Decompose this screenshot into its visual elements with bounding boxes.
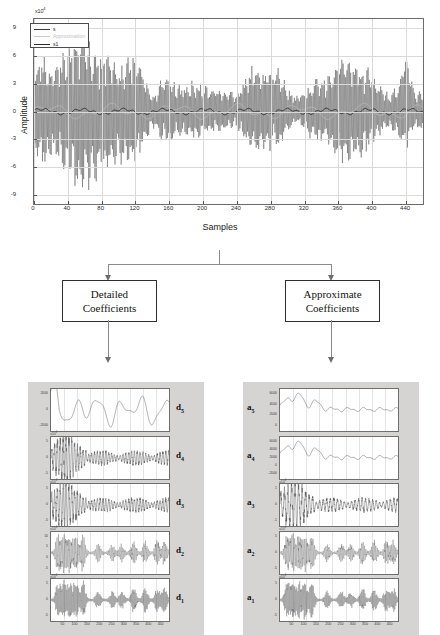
main-chart-x-tick — [271, 201, 272, 204]
main-chart-gridline-horizontal — [34, 167, 423, 168]
subplot-trace-a1 — [280, 579, 398, 621]
subplot-label-a1: a1 — [247, 592, 255, 604]
legend-entry-s: s — [34, 26, 88, 33]
detailed-box-line1: Detailed — [91, 287, 128, 301]
legend-swatch-icon — [34, 29, 50, 30]
subplot-y-tick-label: 2000 — [31, 391, 48, 395]
subplot-y-tick-label: -2000 — [31, 423, 48, 427]
subplot-signal-path — [280, 581, 398, 620]
main-chart-y-tick-label: -6 — [0, 163, 16, 169]
subplot-y-tick-label: 0 — [31, 502, 48, 506]
flow-stem-to-approx-panels — [331, 320, 332, 358]
main-chart-x-tick — [169, 201, 170, 204]
subplot-y-tick-label: 4000 — [260, 447, 277, 451]
main-chart-y-tick-label: 6 — [0, 52, 16, 58]
subplot-trace-d5 — [51, 389, 169, 431]
main-chart-y-tick — [34, 112, 37, 113]
subplot-label-a3: a3 — [247, 497, 255, 509]
subplot-trace-a5 — [280, 389, 398, 431]
subplot-trace-d4 — [51, 437, 169, 479]
subplot-y-tick-label: 5 — [260, 534, 277, 538]
subplot-d1 — [50, 578, 170, 622]
main-chart-x-tick-label: 280 — [255, 205, 285, 211]
subplot-trace-d1 — [51, 579, 169, 621]
legend-entry-approximation: Approximation — [34, 33, 88, 40]
flow-horizontal-bus — [108, 264, 331, 265]
main-chart-gridline-horizontal — [34, 139, 423, 140]
main-chart-gridline-horizontal — [34, 56, 423, 57]
subplot-trace-a2 — [280, 532, 398, 574]
subplot-d2 — [50, 531, 170, 575]
main-chart-x-tick-label: 80 — [86, 205, 116, 211]
main-chart-x-tick-label: 440 — [390, 205, 420, 211]
main-chart-exponent-label: x104 — [35, 6, 45, 14]
subplot-y-tick-label: 5 — [31, 486, 48, 490]
subplot-y-tick-label: 5 — [260, 581, 277, 585]
subplot-exponent-label: x104 — [50, 431, 57, 436]
flow-arrowhead-right-bottom — [328, 357, 334, 363]
flow-stem-vertical — [219, 250, 220, 264]
main-chart-x-tick-label: 40 — [52, 205, 82, 211]
main-chart-x-tick-label: 240 — [221, 205, 251, 211]
subplot-a5 — [279, 388, 399, 432]
subplot-y-tick-label: 0 — [260, 550, 277, 554]
subplot-a4 — [279, 436, 399, 480]
main-chart-x-tick-label: 400 — [356, 205, 386, 211]
subplot-y-tick-label: -5 — [260, 613, 277, 617]
subplot-a3 — [279, 483, 399, 527]
subplot-y-tick-label: 2000 — [260, 455, 277, 459]
subplot-y-tick-label: 2000 — [260, 412, 277, 416]
approximate-coefficients-box[interactable]: Approximate Coefficients — [285, 280, 380, 322]
subplot-y-tick-label: 10 — [31, 534, 48, 538]
subplot-y-tick-label: -1 — [260, 518, 277, 522]
main-chart-y-tick — [34, 84, 37, 85]
flowchart: Detailed Coefficients Approximate Coeffi… — [0, 250, 440, 370]
flow-stem-to-detail-panels — [108, 320, 109, 358]
legend-swatch-icon — [34, 44, 50, 45]
subplot-y-tick-label: 0 — [260, 463, 277, 467]
main-chart-gridline-horizontal — [34, 84, 423, 85]
subplot-exponent-label: x104 — [279, 526, 286, 531]
subplot-trace-a3 — [280, 484, 398, 526]
legend-label: s1 — [53, 41, 58, 48]
subplot-y-tick-label: 0 — [260, 423, 277, 427]
main-chart-y-tick-label: -3 — [0, 135, 16, 141]
legend-label: Approximation — [53, 33, 85, 40]
detailed-box-line2: Coefficients — [83, 301, 137, 315]
main-chart-y-tick — [34, 195, 37, 196]
subplot-label-d2: d2 — [176, 545, 184, 557]
subplot-label-a5: a5 — [247, 402, 255, 414]
subplot-y-tick-label: 0 — [31, 555, 48, 559]
main-chart-x-tick-label: 120 — [119, 205, 149, 211]
subplot-d3 — [50, 483, 170, 527]
subplot-y-tick-label: 0 — [31, 455, 48, 459]
subplot-d5 — [50, 388, 170, 432]
approx-box-line2: Coefficients — [306, 301, 360, 315]
subplot-exponent-label: x104 — [50, 526, 57, 531]
subplot-y-tick-label: 0 — [31, 597, 48, 601]
main-chart-x-tick — [102, 201, 103, 204]
main-chart-x-tick-label: 320 — [289, 205, 319, 211]
detail-coefficient-panel-group: 20000-2000d5x10450-5d4x10450-5d3x1041050… — [28, 382, 204, 635]
subplot-y-tick-label: -5 — [31, 613, 48, 617]
subplot-label-d1: d1 — [176, 592, 184, 604]
subplot-y-tick-label: 0 — [31, 407, 48, 411]
main-chart-plot-area — [33, 18, 424, 205]
main-chart-x-tick-label: 0 — [18, 205, 48, 211]
flow-arrowhead-left-bottom — [105, 357, 111, 363]
subplot-trace-a4 — [280, 437, 398, 479]
main-chart-y-tick-label: 0 — [0, 108, 16, 114]
subplot-exponent-label: x104 — [50, 574, 57, 579]
main-chart-x-tick — [237, 201, 238, 204]
subplot-a2 — [279, 531, 399, 575]
subplot-signal-path — [51, 484, 169, 526]
subplot-y-tick-label: 6000 — [260, 391, 277, 395]
main-chart-x-tick — [203, 201, 204, 204]
subplot-y-tick-label: 5 — [31, 544, 48, 548]
main-chart-y-axis-title: Amplitude — [19, 75, 29, 155]
subplot-exponent-label: x104 — [279, 574, 286, 579]
detailed-coefficients-box[interactable]: Detailed Coefficients — [62, 280, 157, 322]
subplot-d4 — [50, 436, 170, 480]
main-chart-x-tick-label: 360 — [322, 205, 352, 211]
main-chart-x-tick-label: 160 — [153, 205, 183, 211]
